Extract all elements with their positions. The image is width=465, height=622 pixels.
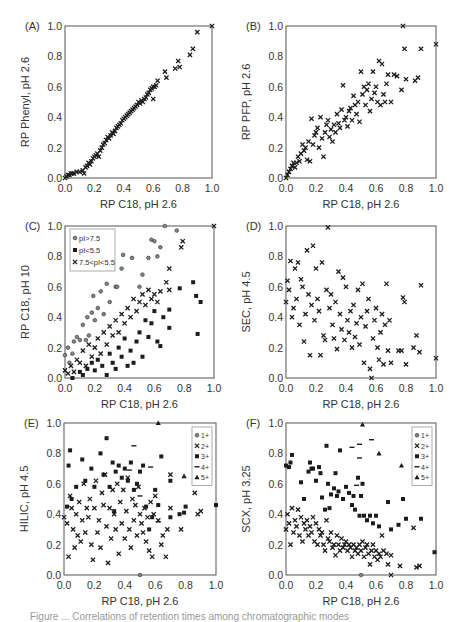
legend-label: 3+ — [201, 453, 209, 460]
series-peptides — [284, 225, 438, 380]
legend-marker-dash-icon — [195, 466, 200, 467]
data-point — [389, 553, 393, 557]
data-point — [377, 358, 381, 362]
data-point — [104, 524, 108, 528]
series-2- — [62, 473, 203, 565]
data-point — [77, 500, 81, 504]
data-point — [149, 297, 153, 301]
data-point — [381, 362, 385, 366]
x-axis-label: RP C18, pH 2.6 — [323, 595, 400, 607]
series-1- — [138, 573, 142, 577]
y-tick-label: 0.4 — [268, 111, 283, 123]
data-point — [66, 555, 70, 559]
data-point — [359, 494, 363, 498]
data-point — [353, 508, 357, 512]
data-point — [419, 517, 423, 521]
data-point — [70, 506, 74, 510]
data-point — [317, 146, 321, 150]
x-tick-label: 1.0 — [429, 579, 444, 591]
data-point — [182, 511, 186, 515]
legend-label: 1+ — [201, 432, 209, 439]
data-point — [386, 500, 390, 504]
panel-c: (C)0.00.20.40.60.81.00.00.20.40.60.81.0R… — [19, 220, 221, 410]
data-point — [287, 521, 291, 525]
legend-marker-circle-icon — [415, 433, 419, 437]
data-point — [309, 530, 313, 534]
data-point — [347, 491, 351, 495]
data-point — [138, 573, 142, 577]
data-point — [144, 539, 148, 543]
data-point — [402, 47, 406, 51]
data-point — [161, 315, 165, 319]
data-point — [288, 259, 292, 263]
data-point — [342, 338, 346, 342]
data-point — [293, 518, 297, 522]
data-point — [345, 318, 349, 322]
x-axis-label: RP C18, pH 2.6 — [101, 398, 178, 410]
data-point — [71, 352, 75, 356]
data-point — [369, 549, 373, 553]
data-point — [320, 260, 324, 264]
data-point — [318, 353, 322, 357]
data-point — [321, 543, 325, 547]
data-point — [175, 229, 179, 233]
data-point — [303, 527, 307, 531]
x-tick-label: 0.8 — [177, 382, 192, 394]
data-point — [133, 503, 137, 507]
data-point — [167, 308, 171, 312]
y-tick-label: 0.6 — [47, 281, 62, 293]
data-point — [128, 315, 132, 319]
data-point — [120, 355, 124, 359]
x-tick-label: 0.4 — [339, 182, 354, 194]
series-peptides — [284, 24, 438, 180]
legend-marker-square-icon — [73, 248, 77, 252]
data-point — [153, 494, 157, 498]
data-point — [164, 555, 168, 559]
data-point — [398, 564, 402, 568]
data-points — [284, 24, 438, 180]
data-point — [404, 517, 408, 521]
data-point — [305, 518, 309, 522]
data-point — [359, 70, 363, 74]
data-point — [306, 292, 310, 296]
x-tick-label: 0.6 — [369, 182, 384, 194]
data-point — [70, 376, 74, 380]
y-tick-label: 0.2 — [47, 142, 62, 154]
x-tick-label: 0.0 — [279, 182, 294, 194]
data-point — [335, 494, 339, 498]
data-point — [371, 70, 375, 74]
y-tick-label: 0.6 — [268, 478, 283, 490]
panel-label: (C) — [25, 220, 40, 232]
data-point — [156, 503, 160, 507]
data-point — [100, 491, 104, 495]
data-point — [319, 471, 323, 475]
data-point — [323, 130, 327, 134]
data-point — [90, 361, 94, 365]
data-point — [290, 506, 294, 510]
x-tick-label: 0.0 — [57, 579, 72, 591]
data-point — [352, 494, 356, 498]
x-tick-label: 1.0 — [209, 579, 224, 591]
legend: pI>7.5pI<5.57.5<pI<5.5 — [70, 229, 115, 271]
data-point — [83, 530, 87, 534]
data-point — [299, 277, 303, 281]
data-point — [138, 512, 142, 516]
x-axis-label: RP C18, pH 2.6 — [100, 198, 177, 210]
data-point — [168, 473, 172, 477]
data-point — [148, 466, 153, 467]
data-point — [323, 508, 327, 512]
data-point — [147, 256, 151, 260]
data-point — [87, 334, 91, 338]
data-point — [94, 479, 98, 483]
data-point — [120, 521, 124, 525]
data-point — [138, 470, 142, 474]
data-point — [399, 88, 403, 92]
data-point — [311, 142, 315, 146]
data-point — [93, 346, 97, 350]
data-point — [108, 485, 112, 489]
y-tick-label: 1.0 — [268, 220, 283, 232]
y-tick-label: 1.0 — [46, 417, 61, 429]
data-point — [328, 506, 332, 510]
data-point — [380, 533, 384, 537]
x-tick-label: 0.4 — [117, 382, 132, 394]
